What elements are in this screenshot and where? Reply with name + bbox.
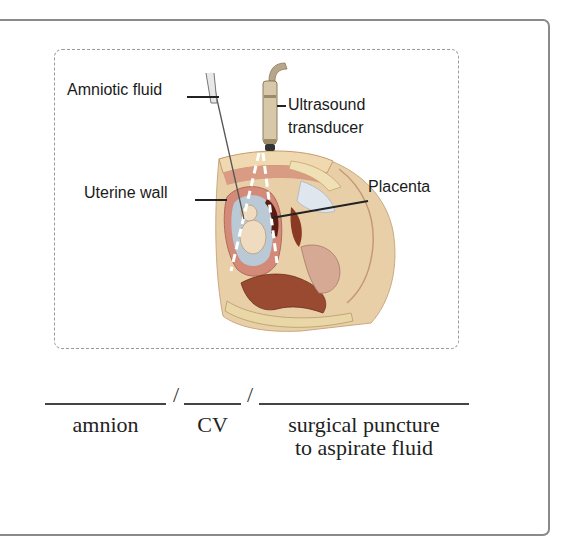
leader-amniotic-fluid [187, 96, 219, 98]
blank-combining-vowel[interactable] [184, 403, 241, 405]
label-uterine-wall: Uterine wall [84, 183, 168, 203]
leader-ultrasound [277, 105, 286, 107]
blank-suffix[interactable] [259, 403, 469, 405]
leader-uterine-wall [195, 199, 227, 201]
meaning-cv: CV [184, 413, 241, 436]
figure-frame: Amniotic fluid Ultrasound transducer Ute… [54, 49, 459, 349]
blank-prefix[interactable] [45, 403, 166, 405]
separator-1: / [173, 384, 179, 406]
meaning-amnion: amnion [45, 413, 166, 436]
label-ultrasound-line1: Ultrasound [288, 95, 365, 115]
meaning-suffix-line1: surgical puncture [254, 413, 474, 436]
label-placenta: Placenta [368, 177, 430, 197]
label-amniotic-fluid: Amniotic fluid [67, 80, 162, 100]
meaning-suffix-line2: to aspirate fluid [254, 436, 474, 459]
label-ultrasound-line2: transducer [288, 118, 364, 138]
separator-2: / [247, 384, 253, 406]
